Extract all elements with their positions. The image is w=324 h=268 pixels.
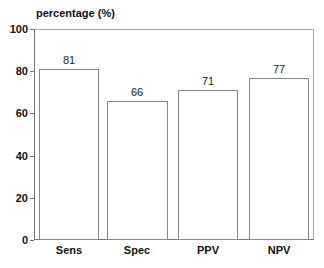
bar-value-label: 71 — [178, 75, 238, 87]
y-tick-mark — [30, 240, 34, 241]
y-tick-label: 40 — [0, 150, 28, 162]
y-tick-label: 60 — [0, 107, 28, 119]
y-tick-label: 20 — [0, 192, 28, 204]
y-tick-mark — [30, 113, 34, 114]
y-tick-mark — [30, 198, 34, 199]
bar-npv — [249, 78, 309, 240]
x-category-label: Sens — [39, 244, 99, 256]
bar-value-label: 81 — [39, 54, 99, 66]
y-tick-mark — [30, 29, 34, 30]
y-tick-label: 80 — [0, 65, 28, 77]
bar-sens — [39, 69, 99, 240]
x-category-label: Spec — [107, 244, 167, 256]
y-tick-mark — [30, 71, 34, 72]
y-tick-label: 100 — [0, 23, 28, 35]
x-category-label: PPV — [178, 244, 238, 256]
bar-value-label: 66 — [107, 86, 167, 98]
bar-spec — [107, 101, 168, 240]
y-tick-mark — [30, 156, 34, 157]
y-axis-label: percentage (%) — [36, 7, 115, 19]
x-category-label: NPV — [249, 244, 309, 256]
bar-ppv — [178, 90, 238, 240]
bar-value-label: 77 — [249, 63, 309, 75]
y-tick-label: 0 — [0, 234, 28, 246]
